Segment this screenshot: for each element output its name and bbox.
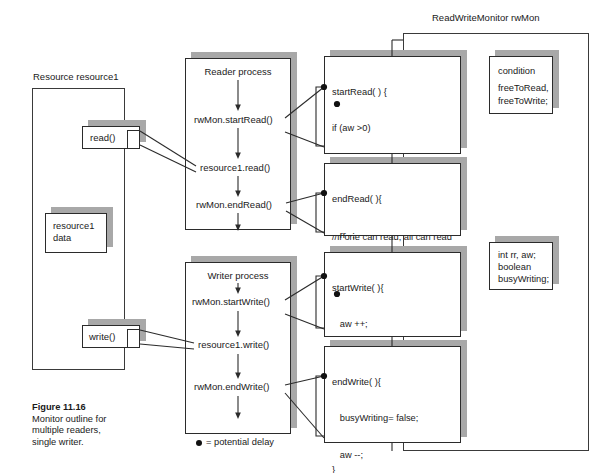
start-read-rail — [316, 87, 324, 146]
legend-label: = potential delay — [206, 437, 274, 447]
return-start-write — [285, 314, 324, 329]
link-resource-write — [140, 330, 194, 343]
end-write-rail — [316, 376, 324, 436]
figure-number: Figure 11.16 — [32, 402, 106, 414]
call-start-write — [285, 276, 324, 300]
call-end-write — [285, 376, 324, 385]
end-read-rail — [316, 193, 324, 232]
figure-caption-line-3: single writer. — [32, 437, 106, 449]
figure-caption-line-2: multiple readers, — [32, 425, 106, 437]
figure-caption-line-1: Monitor outline for — [32, 414, 106, 426]
return-end-write — [285, 393, 324, 438]
delay-dot-start-write-wait — [334, 291, 340, 297]
figure-canvas: ReadWriteMonitor rwMon Resource resource… — [0, 0, 610, 473]
potential-delay-dot-icon — [196, 440, 202, 446]
delay-dot-start-read-entry — [321, 84, 327, 90]
call-end-read — [286, 193, 324, 203]
return-end-read — [286, 211, 324, 233]
start-write-rail — [316, 276, 324, 328]
call-start-read — [285, 87, 324, 118]
delay-dot-end-read-entry — [321, 190, 327, 196]
delay-dot-end-write-entry — [321, 373, 327, 379]
delay-dot-start-write-entry — [321, 273, 327, 279]
legend: = potential delay — [196, 437, 274, 447]
link-resource-write-back — [140, 344, 194, 349]
figure-caption: Figure 11.16 Monitor outline for multipl… — [32, 402, 106, 448]
return-start-read — [285, 132, 324, 147]
delay-dot-start-read-wait — [334, 101, 340, 107]
